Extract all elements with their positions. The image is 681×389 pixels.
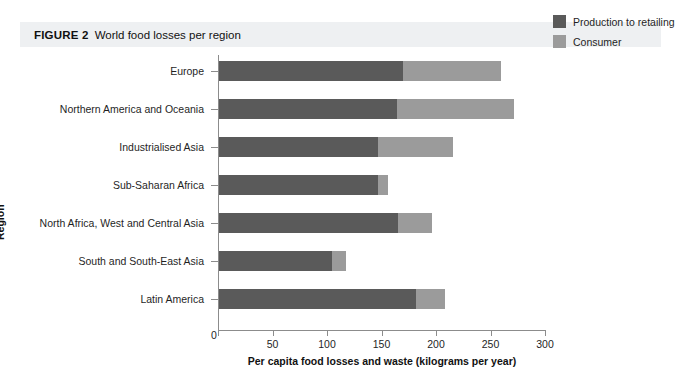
- x-axis-tick-label: 250: [482, 338, 500, 350]
- legend-item-consumer: Consumer: [553, 35, 681, 48]
- bar-segment-production-to-retailing: [218, 61, 403, 81]
- bar-stack: [218, 251, 346, 271]
- x-axis-tick-label: 50: [267, 338, 279, 350]
- y-axis-category-label: Industrialised Asia: [0, 137, 211, 157]
- bar-segment-production-to-retailing: [218, 289, 416, 309]
- legend-label-consumer: Consumer: [573, 36, 621, 48]
- bar-segment-production-to-retailing: [218, 251, 332, 271]
- bar-segment-consumer: [332, 251, 345, 271]
- y-axis-tick: [211, 299, 218, 300]
- legend-item-production-to-retailing: Production to retailing: [553, 15, 681, 28]
- figure-number: FIGURE 2: [34, 29, 89, 41]
- x-axis-tick: [273, 330, 274, 336]
- bar-segment-consumer: [378, 175, 388, 195]
- y-axis-tick: [211, 223, 218, 224]
- y-axis-category-label: South and South-East Asia: [0, 251, 211, 271]
- bar-segment-production-to-retailing: [218, 99, 397, 119]
- x-axis-title: Per capita food losses and waste (kilogr…: [218, 355, 546, 367]
- x-axis-tick-label: 200: [427, 338, 445, 350]
- bar-stack: [218, 213, 432, 233]
- x-axis-tick-label: 100: [318, 338, 336, 350]
- bar-stack: [218, 99, 514, 119]
- y-axis-tick: [211, 109, 218, 110]
- bar-segment-consumer: [416, 289, 444, 309]
- y-axis-tick: [211, 261, 218, 262]
- bar-stack: [218, 289, 445, 309]
- figure-title: World food losses per region: [95, 29, 241, 41]
- y-axis-tick: [211, 185, 218, 186]
- bar-segment-production-to-retailing: [218, 137, 378, 157]
- x-axis-tick-label: 300: [536, 338, 554, 350]
- y-axis-category-label: Northern America and Oceania: [0, 99, 211, 119]
- bar-segment-production-to-retailing: [218, 213, 398, 233]
- x-axis-tick: [545, 330, 546, 336]
- x-axis-tick-label: 150: [373, 338, 391, 350]
- y-axis-category-label: Latin America: [0, 289, 211, 309]
- legend-label-production-to-retailing: Production to retailing: [573, 16, 675, 28]
- x-axis-tick-label: 0: [211, 329, 217, 341]
- bar-segment-consumer: [398, 213, 432, 233]
- y-axis-category-label: Europe: [0, 61, 211, 81]
- x-axis-tick: [382, 330, 383, 336]
- x-axis-tick: [327, 330, 328, 336]
- bar-segment-consumer: [378, 137, 453, 157]
- chart-plot-area: Region EuropeNorthern America and Oceani…: [0, 55, 681, 345]
- bar-stack: [218, 137, 453, 157]
- legend-swatch-production-to-retailing: [553, 15, 566, 28]
- y-axis-tick: [211, 71, 218, 72]
- x-axis-tick: [436, 330, 437, 336]
- bar-stack: [218, 175, 388, 195]
- bar-segment-production-to-retailing: [218, 175, 378, 195]
- bar-segment-consumer: [397, 99, 515, 119]
- y-axis-line: [218, 55, 219, 330]
- y-axis-category-label: North Africa, West and Central Asia: [0, 213, 211, 233]
- chart-legend: Production to retailing Consumer: [553, 15, 681, 55]
- y-axis-tick: [211, 147, 218, 148]
- legend-swatch-consumer: [553, 35, 566, 48]
- x-axis-tick: [491, 330, 492, 336]
- bar-segment-consumer: [403, 61, 501, 81]
- y-axis-category-label: Sub-Saharan Africa: [0, 175, 211, 195]
- bars-layer: EuropeNorthern America and OceaniaIndust…: [0, 55, 681, 330]
- bar-stack: [218, 61, 501, 81]
- x-axis-tick: [218, 330, 219, 336]
